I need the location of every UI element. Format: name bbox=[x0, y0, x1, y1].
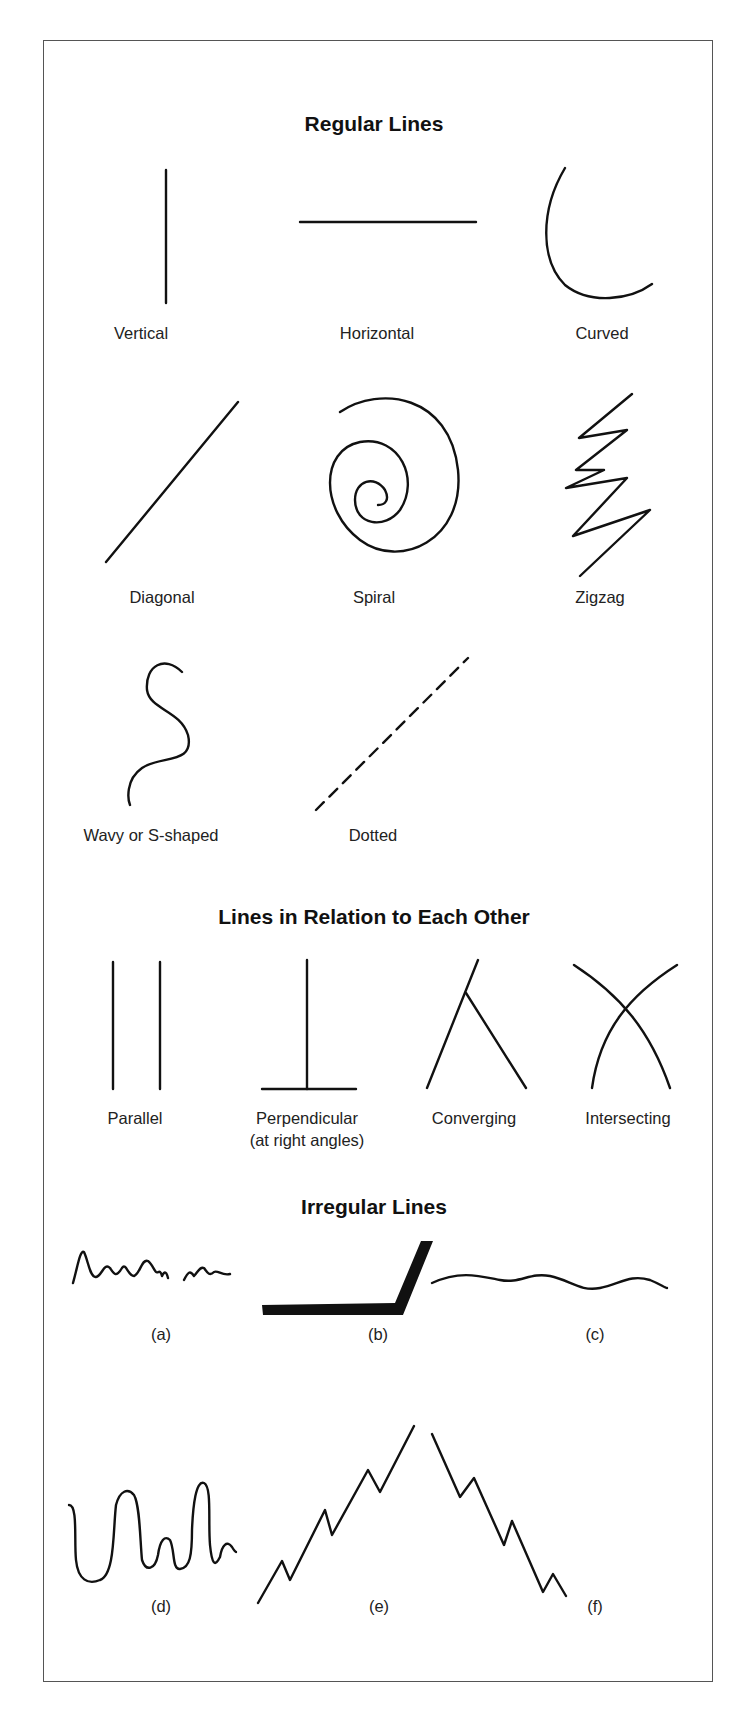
irregular-line-e bbox=[258, 1426, 414, 1603]
label-irregular-a: (a) bbox=[151, 1324, 171, 1345]
label-irregular-c: (c) bbox=[585, 1324, 604, 1345]
irregular-line-f bbox=[432, 1434, 566, 1596]
label-spiral: Spiral bbox=[353, 587, 395, 608]
irregular-line-d bbox=[69, 1483, 236, 1582]
label-diagonal: Diagonal bbox=[129, 587, 194, 608]
dotted-line-sample bbox=[316, 658, 468, 810]
relation-lines-heading: Lines in Relation to Each Other bbox=[218, 905, 530, 929]
label-horizontal: Horizontal bbox=[340, 323, 414, 344]
irregular-line-b bbox=[262, 1241, 433, 1315]
diagonal-line-sample bbox=[106, 402, 238, 562]
label-irregular-e: (e) bbox=[369, 1596, 389, 1617]
converging-line-long bbox=[427, 960, 478, 1088]
wavy-line-sample bbox=[128, 664, 188, 805]
irregular-lines-heading: Irregular Lines bbox=[301, 1195, 447, 1219]
zigzag-line-sample bbox=[566, 394, 650, 576]
label-irregular-d: (d) bbox=[151, 1596, 171, 1617]
curved-line-sample bbox=[546, 168, 652, 298]
label-irregular-b: (b) bbox=[368, 1324, 388, 1345]
label-dotted: Dotted bbox=[349, 825, 398, 846]
regular-lines-heading: Regular Lines bbox=[305, 112, 444, 136]
label-irregular-f: (f) bbox=[587, 1596, 603, 1617]
label-converging: Converging bbox=[432, 1108, 516, 1129]
line-types-illustration bbox=[0, 0, 742, 1718]
label-zigzag: Zigzag bbox=[575, 587, 625, 608]
irregular-line-c bbox=[432, 1275, 667, 1289]
spiral-line-sample bbox=[330, 398, 459, 551]
label-perpendicular: Perpendicular bbox=[256, 1108, 358, 1129]
label-perpendicular-sub: (at right angles) bbox=[250, 1130, 365, 1151]
label-intersecting: Intersecting bbox=[585, 1108, 670, 1129]
label-curved: Curved bbox=[575, 323, 628, 344]
intersecting-line-a bbox=[574, 965, 670, 1088]
converging-line-short bbox=[466, 993, 526, 1088]
label-parallel: Parallel bbox=[107, 1108, 162, 1129]
irregular-line-a bbox=[73, 1252, 230, 1283]
label-vertical: Vertical bbox=[114, 323, 168, 344]
label-wavy: Wavy or S-shaped bbox=[83, 825, 218, 846]
